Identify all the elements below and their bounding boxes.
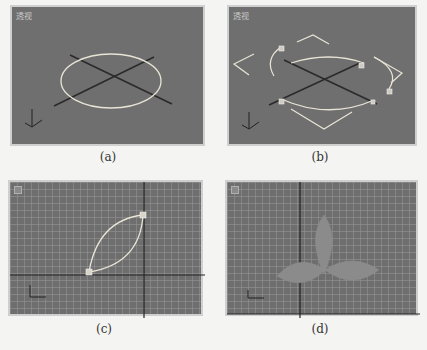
axis-gizmo-icon: [248, 290, 264, 298]
caption-a: (a): [88, 150, 128, 164]
caption-d: (d): [300, 322, 340, 336]
viewport-a[interactable]: 透视: [10, 5, 205, 146]
vertex-handle-icon: [86, 212, 146, 275]
viewport-c[interactable]: [8, 180, 203, 316]
caption-c: (c): [84, 322, 124, 336]
axis-gizmo-icon: [25, 109, 42, 127]
viewport-d[interactable]: [225, 180, 418, 316]
perspective-scene-a: [12, 7, 207, 148]
leaf-shape: [277, 215, 379, 283]
front-scene-d: [227, 182, 420, 318]
front-scene-c: [10, 182, 205, 318]
perspective-scene-b: [229, 7, 419, 148]
axis-gizmo-icon: [30, 285, 46, 297]
axis-gizmo-icon: [242, 112, 259, 129]
viewport-b[interactable]: 透视: [227, 5, 417, 146]
caption-b: (b): [300, 150, 340, 164]
